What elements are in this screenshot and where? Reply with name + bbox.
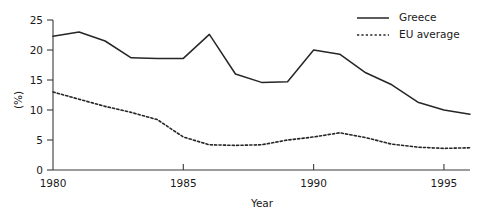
y-axis-title: (%) xyxy=(12,91,24,109)
y-tick-label: 0 xyxy=(36,164,43,176)
legend-label-greece: Greece xyxy=(399,11,436,23)
x-tick-label: 1995 xyxy=(431,177,458,189)
chart-figure: 0510152025 1980198519901995 (%) Year Gre… xyxy=(0,0,486,214)
legend-label-eu-average: EU average xyxy=(399,28,460,40)
y-tick-label: 25 xyxy=(30,14,43,26)
series-group xyxy=(53,32,470,148)
y-tick-label: 20 xyxy=(30,44,43,56)
series-line-eu-average xyxy=(53,92,470,148)
y-tick-label: 10 xyxy=(30,104,43,116)
x-tick-label: 1985 xyxy=(170,177,197,189)
chart-legend: GreeceEU average xyxy=(357,11,460,40)
line-chart: 0510152025 1980198519901995 (%) Year Gre… xyxy=(0,0,486,214)
x-axis-title: Year xyxy=(250,197,274,209)
x-tick-label: 1980 xyxy=(40,177,67,189)
y-axis-ticks: 0510152025 xyxy=(30,14,53,176)
x-axis-ticks: 1980198519901995 xyxy=(40,164,458,189)
series-line-greece xyxy=(53,32,470,114)
y-tick-label: 5 xyxy=(36,134,43,146)
y-tick-label: 15 xyxy=(30,74,43,86)
x-tick-label: 1990 xyxy=(300,177,327,189)
